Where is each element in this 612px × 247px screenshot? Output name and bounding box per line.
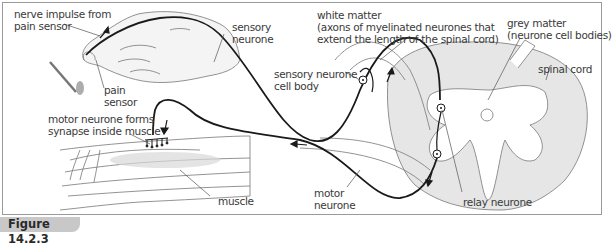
label-nerve-impulse: nerve impulse from pain sensor: [14, 8, 111, 32]
label-muscle: muscle: [218, 195, 254, 207]
match-icon: [50, 62, 84, 95]
figure-caption: Figure 14.2.3: [0, 217, 80, 232]
label-sensory-neurone: sensory neurone: [232, 21, 273, 45]
label-relay-neurone: relay neurone: [463, 196, 532, 208]
central-canal: [481, 109, 493, 121]
label-grey-matter: grey matter (neurone cell bodies): [507, 17, 612, 41]
muscle-fibre-shading: [110, 152, 220, 168]
label-spinal-cord: spinal cord: [538, 63, 592, 75]
label-motor-neurone: motor neurone: [314, 187, 355, 211]
label-pain-sensor: pain sensor: [104, 84, 137, 108]
flame-icon: [76, 81, 84, 95]
label-white-matter: white matter (axons of myelinated neuron…: [317, 9, 499, 45]
label-sensory-cell-body: sensory neurone cell body: [274, 68, 357, 92]
label-motor-synapse: motor neurone forms synapse inside muscl…: [48, 113, 160, 137]
